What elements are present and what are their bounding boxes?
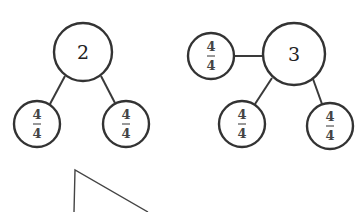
bond2-part-left: 4 4: [188, 33, 234, 79]
fraction-numerator: 4: [206, 39, 215, 54]
fraction-denominator: 4: [121, 126, 130, 141]
bond1-part-left: 4 4: [14, 101, 60, 147]
fraction-numerator: 4: [32, 107, 41, 122]
fraction-denominator: 4: [32, 126, 41, 141]
fraction-denominator: 4: [206, 58, 215, 73]
bond2-part-bottom-right: 4 4: [307, 103, 353, 149]
number-bond-diagram: 2 4 4 4 4 3 4 4 4 4 4 4: [0, 0, 361, 212]
fraction-denominator: 4: [237, 126, 246, 141]
fraction-numerator: 4: [325, 109, 334, 124]
bond1-edge-left: [50, 76, 65, 104]
bond2-whole-circle: 3: [263, 23, 325, 85]
bond1-whole-circle: 2: [54, 23, 112, 81]
bond1-part-right: 4 4: [103, 101, 149, 147]
bond2-whole-label: 3: [288, 43, 300, 65]
bond2-edge-bottom-right: [313, 79, 322, 104]
bond1-whole-label: 2: [77, 41, 89, 63]
bond2-part-bottom-left: 4 4: [219, 101, 265, 147]
triangle-shape: [74, 170, 148, 212]
fraction-denominator: 4: [325, 128, 334, 143]
fraction-numerator: 4: [121, 107, 130, 122]
bond1-edge-right: [101, 76, 115, 103]
bond2-edge-bottom-left: [255, 78, 272, 104]
fraction-numerator: 4: [237, 107, 246, 122]
